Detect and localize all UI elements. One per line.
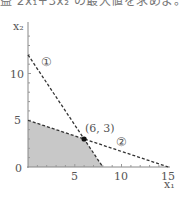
linear-programming-chart: x₂ x₁ 0 5 10 5 10 15 (6, 3) ① ② xyxy=(0,0,191,200)
x-tick-10: 10 xyxy=(114,170,128,183)
x-tick-15: 15 xyxy=(161,170,175,183)
y-tick-5: 5 xyxy=(14,114,21,127)
intersection-label: (6, 3) xyxy=(85,122,115,135)
line-1-label: ① xyxy=(41,55,52,69)
y-tick-10: 10 xyxy=(10,68,24,81)
line-2-label: ② xyxy=(116,135,127,149)
x-tick-5: 5 xyxy=(71,170,78,183)
y-axis-label: x₂ xyxy=(13,20,24,33)
origin-label: 0 xyxy=(15,162,22,175)
intersection-point xyxy=(82,136,87,141)
